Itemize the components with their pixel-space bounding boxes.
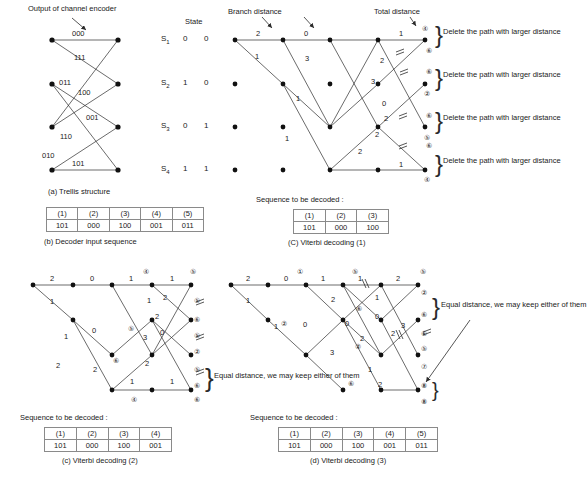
branch-dist-c-14: 1 <box>399 161 403 170</box>
col-header: (3) <box>108 428 140 440</box>
total-dist-d-2: ⑤ <box>190 268 196 276</box>
branch-dist-d-15: 2 <box>155 313 159 322</box>
brace-e-1: } <box>432 300 440 315</box>
branch-dist-e-6: 1 <box>246 297 250 306</box>
panel-c-edges <box>235 40 425 170</box>
branch-dist-c-3: 1 <box>399 30 403 39</box>
branch-dist-c-13: 1 <box>285 135 289 144</box>
total-distance-arrow <box>410 17 416 26</box>
col-header: (4) <box>140 428 172 440</box>
total-dist-e-8: ⑦ <box>421 363 427 371</box>
col-header: (2) <box>76 428 108 440</box>
branch-dist-e-17: 1 <box>368 366 372 375</box>
branch-dist-e-10: 1 <box>375 294 379 303</box>
total-dist-e-14: ⑥ <box>348 380 354 388</box>
branch-dist-e-11: 0 <box>345 320 349 329</box>
edge-label-100: 100 <box>78 89 91 98</box>
decoder-input-table: (1) (2) (3) (4) (5) 101 000 100 001 011 <box>46 207 204 232</box>
caption-panel-e: (d) Viterbi decoding (3) <box>310 457 386 466</box>
branch-dist-d-5: 1 <box>50 298 54 307</box>
branch-dist-d-14: 3 <box>143 334 147 343</box>
panel-c-delete-marks <box>396 49 408 149</box>
cell: 100 <box>108 440 140 452</box>
table-row: 101 000 100 001 011 <box>47 220 204 232</box>
brace-c-4: } <box>435 157 443 172</box>
branch-dist-d-17: 0 <box>160 329 164 338</box>
branch-dist-c-12: 2 <box>358 148 362 157</box>
table-row: 101 000 100 <box>294 222 389 234</box>
branch-dist-d-12: 1 <box>170 378 174 387</box>
branch-dist-d-9: 0 <box>92 327 96 336</box>
edge-label-010: 010 <box>42 152 55 161</box>
caption-panel-c: (C) Viterbi decoding (1) <box>288 239 365 248</box>
cell: 101 <box>47 220 78 232</box>
total-dist-c-7: ⑥ <box>426 142 432 150</box>
total-dist-d-9: ⑥ <box>194 396 200 404</box>
branch-dist-e-14: 3 <box>401 322 405 331</box>
branch-dist-e-2: 0 <box>284 275 288 284</box>
state-bit-1b: 0 <box>204 34 208 43</box>
sequence-title-c: Sequence to be decoded : <box>256 196 344 205</box>
panel-c-nodes <box>233 38 428 173</box>
total-dist-e-11: ⑥ <box>356 305 362 313</box>
col-header: (5) <box>406 428 438 440</box>
cell: 001 <box>374 440 406 452</box>
edge-label-101: 101 <box>72 160 85 169</box>
cell: 001 <box>141 220 172 232</box>
total-dist-e-13: ② <box>355 343 361 351</box>
branch-dist-d-4: 1 <box>170 275 174 284</box>
col-header: (3) <box>342 428 374 440</box>
cell: 100 <box>357 222 389 234</box>
equal-distance-note-e: Equal distance, we may keep either of th… <box>441 301 497 310</box>
branch-dist-c-6: 2 <box>380 57 384 66</box>
brace-c-3: } <box>435 114 443 129</box>
panel-d-edges <box>33 285 191 390</box>
state-bit-2b: 0 <box>204 78 208 87</box>
total-dist-c-3: ⑥ <box>426 68 432 76</box>
state-bit-3a: 0 <box>183 121 187 130</box>
branch-dist-c-7: 1 <box>296 95 300 104</box>
branch-dist-e-8: 0 <box>303 321 307 330</box>
total-dist-c-1: ④ <box>422 25 428 33</box>
branch-dist-d-8: 2 <box>56 362 60 371</box>
state-bit-1a: 0 <box>183 34 187 43</box>
sequence-title-e: Sequence to be decoded : <box>250 414 338 423</box>
state-bit-4b: 1 <box>204 164 208 173</box>
branch-dist-d-6: 2 <box>163 294 167 303</box>
total-dist-e-9: ⑧ <box>421 382 427 390</box>
total-dist-c-6: ⑤ <box>424 134 430 142</box>
branch-dist-e-18: 2 <box>378 381 382 390</box>
branch-dist-e-3: 1 <box>321 275 325 284</box>
cell: 001 <box>140 440 172 452</box>
col-header: (1) <box>47 208 78 220</box>
cell: 100 <box>342 440 374 452</box>
total-dist-e-5: ⑥ <box>421 311 427 319</box>
total-dist-e-3: ⑤ <box>420 268 426 276</box>
state-bit-3b: 1 <box>204 121 208 130</box>
branch-dist-c-9: 0 <box>382 100 386 109</box>
total-dist-d-7: ⑤ <box>194 366 200 374</box>
state-bit-4a: 1 <box>183 164 187 173</box>
total-dist-e-12: ② <box>281 320 287 328</box>
branch-dist-e-5: 2 <box>396 275 400 284</box>
col-header: (2) <box>325 210 357 222</box>
branch-distance-annotation: Branch distance <box>228 8 282 17</box>
total-dist-d-10: ⑤ <box>128 325 134 333</box>
col-header: (2) <box>78 208 109 220</box>
cell: 000 <box>76 440 108 452</box>
cell: 000 <box>78 220 109 232</box>
branch-dist-e-9: 2 <box>331 296 335 305</box>
total-dist-c-5: ⑥ <box>426 112 432 120</box>
col-header: (5) <box>172 208 203 220</box>
branch-dist-c-2: 0 <box>304 30 308 39</box>
delete-note-3: Delete the path with larger distance <box>443 114 495 123</box>
sequence-table-e: (1) (2) (3) (4) (5) 101 000 100 001 011 <box>278 427 438 452</box>
total-dist-d-12: ④ <box>131 396 137 404</box>
sequence-title-d: Sequence to be decoded : <box>20 414 108 423</box>
branch-distance-arrow-2 <box>304 17 314 28</box>
total-dist-e-10: ⑧ <box>421 398 427 406</box>
col-header: (1) <box>279 428 311 440</box>
col-header: (3) <box>357 210 389 222</box>
branch-dist-c-4: 1 <box>255 53 259 62</box>
cell: 000 <box>310 440 342 452</box>
